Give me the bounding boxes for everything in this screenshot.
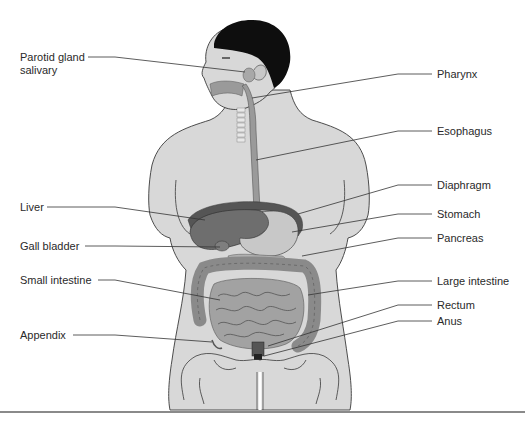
label-diaphragm: Diaphragm [437,179,491,192]
label-gall-bladder: Gall bladder [20,240,79,253]
digestive-system-diagram: Parotid gland salivary Liver Gall bladde… [0,0,525,423]
label-parotid-line1: Parotid gland [20,51,85,64]
label-pancreas: Pancreas [437,232,483,245]
label-rectum: Rectum [437,299,475,312]
label-anus: Anus [437,315,462,328]
label-large-intestine: Large intestine [437,275,509,288]
label-liver: Liver [20,201,44,214]
bottom-divider [0,411,525,413]
label-parotid-gland: Parotid gland salivary [20,51,85,77]
label-esophagus: Esophagus [437,125,492,138]
label-pharynx: Pharynx [437,68,477,81]
label-stomach: Stomach [437,208,480,221]
label-small-intestine: Small intestine [20,274,92,287]
label-appendix: Appendix [20,329,66,342]
label-parotid-line2: salivary [20,64,85,77]
